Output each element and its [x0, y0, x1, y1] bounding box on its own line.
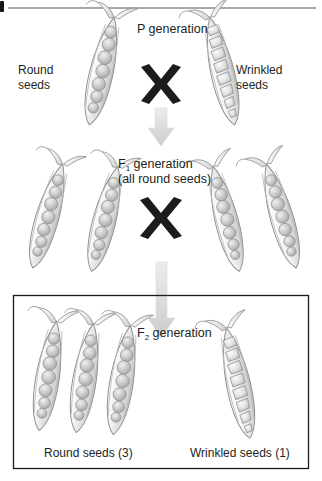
f1-generation-subtitle: (all round seeds) — [118, 172, 211, 186]
f2-generation-title: F2 generation — [137, 326, 212, 342]
p-left-label-line2: seeds — [18, 78, 50, 92]
p-generation-title: P generation — [137, 22, 208, 36]
f2-round-label: Round seeds (3) — [44, 446, 133, 460]
p-right-label-line1: Wrinkled — [236, 63, 282, 77]
p-left-label-line1: Round — [18, 63, 53, 77]
figure-canvas: P generation Round seeds Wrinkled seeds — [0, 0, 322, 481]
f1-title-rest: generation — [130, 157, 193, 171]
f2-title-rest: generation — [149, 326, 212, 340]
f1-cross-symbol — [140, 197, 182, 239]
f1-pod-1 — [5, 143, 87, 274]
arrow-p-to-f1 — [148, 108, 174, 146]
f1-pod-3 — [181, 148, 259, 278]
genetics-figure: P generation Round seeds Wrinkled seeds — [0, 0, 322, 481]
p-pod-round — [60, 0, 138, 130]
f2-pod-round-1 — [9, 303, 79, 434]
p-generation-group: P generation Round seeds Wrinkled seeds — [18, 0, 282, 132]
f1-pod-4 — [234, 145, 316, 276]
figure-number-mark — [0, 1, 4, 12]
f2-wrinkled-label: Wrinkled seeds (1) — [190, 446, 290, 460]
f2-generation-group: F2 generation Round seeds (3) Wrinkled s… — [9, 303, 289, 460]
p-right-label-line2: seeds — [236, 78, 268, 92]
f1-generation-group: F1 generation (all round seeds) — [5, 143, 317, 279]
f1-generation-title: F1 generation — [118, 157, 193, 173]
p-cross-symbol — [141, 64, 181, 104]
